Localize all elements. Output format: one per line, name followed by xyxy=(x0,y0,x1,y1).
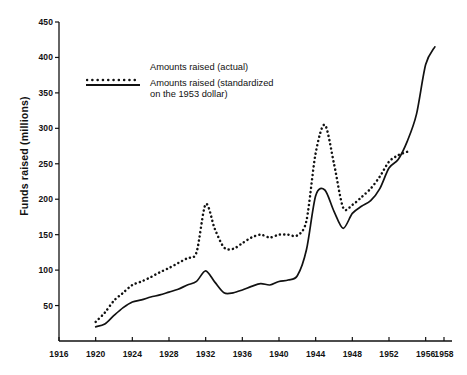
plot-canvas xyxy=(0,0,467,375)
chart-figure: Funds raised (millions) 5010015020025030… xyxy=(0,0,467,375)
series-line-standardized xyxy=(96,47,435,327)
data-series-layer xyxy=(96,47,435,327)
axis-lines xyxy=(55,22,452,341)
series-line-actual xyxy=(96,125,408,322)
